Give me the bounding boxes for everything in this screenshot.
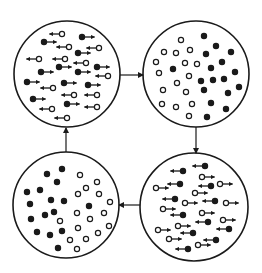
particle xyxy=(85,82,100,87)
open-dot xyxy=(36,56,41,61)
filled-dot xyxy=(75,50,80,55)
open-dot xyxy=(96,45,101,50)
particle xyxy=(199,174,214,179)
particle xyxy=(166,236,181,241)
filled-dot xyxy=(225,90,230,95)
particle xyxy=(41,39,56,44)
filled-dot xyxy=(210,77,215,82)
filled-dot xyxy=(59,228,64,233)
open-dot xyxy=(94,179,99,184)
particle xyxy=(56,44,71,49)
filled-dot xyxy=(208,183,213,188)
filled-dot xyxy=(86,203,91,208)
open-dot xyxy=(217,181,222,186)
particle xyxy=(173,50,178,55)
particle xyxy=(101,210,106,215)
particle xyxy=(95,73,110,78)
particle xyxy=(223,200,238,205)
particle xyxy=(155,227,170,232)
open-dot xyxy=(75,191,80,196)
filled-dot xyxy=(94,64,99,69)
particle xyxy=(95,230,100,235)
particle xyxy=(187,47,192,52)
open-dot xyxy=(83,236,88,241)
filled-dot xyxy=(205,219,210,224)
particle xyxy=(225,90,230,95)
filled-dot xyxy=(221,76,226,81)
filled-dot xyxy=(37,187,42,192)
filled-dot xyxy=(24,79,29,84)
particle xyxy=(232,69,237,74)
cycle-diagram xyxy=(0,0,262,273)
open-dot xyxy=(96,191,101,196)
filled-dot xyxy=(24,189,29,194)
open-dot xyxy=(94,92,99,97)
particle xyxy=(24,79,39,84)
open-dot xyxy=(166,236,171,241)
open-dot xyxy=(74,210,79,215)
particle xyxy=(220,217,235,222)
particle xyxy=(87,216,92,221)
particle xyxy=(34,229,39,234)
open-dot xyxy=(161,49,166,54)
particle xyxy=(173,104,178,109)
particle xyxy=(75,225,80,230)
particle xyxy=(44,171,49,176)
particle xyxy=(26,56,41,61)
particle xyxy=(24,189,29,194)
particle xyxy=(161,49,166,54)
open-dot xyxy=(153,185,158,190)
particle xyxy=(162,196,177,201)
filled-dot xyxy=(208,100,213,105)
particle xyxy=(86,45,101,50)
particle xyxy=(75,50,90,55)
particle xyxy=(59,166,64,171)
filled-dot xyxy=(236,84,241,89)
filled-dot xyxy=(223,106,228,111)
open-dot xyxy=(187,47,192,52)
open-dot xyxy=(156,70,161,75)
open-dot xyxy=(71,92,76,97)
filled-dot xyxy=(177,181,182,186)
open-dot xyxy=(189,101,194,106)
particle xyxy=(170,212,185,217)
open-dot xyxy=(183,89,188,94)
filled-dot xyxy=(228,49,233,54)
particle xyxy=(67,237,72,242)
particle xyxy=(203,51,208,56)
particle xyxy=(54,115,69,120)
particle xyxy=(56,64,71,69)
open-dot xyxy=(74,246,79,251)
open-dot xyxy=(101,210,106,215)
particle xyxy=(160,87,165,92)
particle xyxy=(236,84,241,89)
filled-dot xyxy=(61,198,66,203)
filled-dot xyxy=(64,101,69,106)
particle xyxy=(52,56,67,61)
open-dot xyxy=(174,80,179,85)
filled-dot xyxy=(203,51,208,56)
particle xyxy=(194,61,199,66)
particle xyxy=(61,80,76,85)
particle xyxy=(182,60,187,65)
open-dot xyxy=(182,200,187,205)
open-dot xyxy=(57,218,62,223)
particle xyxy=(107,199,112,204)
open-dot xyxy=(160,206,165,211)
filled-dot xyxy=(48,197,53,202)
particle xyxy=(61,198,66,203)
open-dot xyxy=(105,73,110,78)
open-dot xyxy=(83,60,88,65)
particle xyxy=(39,106,54,111)
filled-dot xyxy=(172,196,177,201)
particle xyxy=(47,232,52,237)
open-dot xyxy=(195,242,200,247)
particle xyxy=(40,85,55,90)
particle xyxy=(208,65,213,70)
filled-dot xyxy=(79,34,84,39)
filled-dot xyxy=(41,39,46,44)
open-dot xyxy=(199,210,204,215)
filled-dot xyxy=(180,168,185,173)
panel-bottom-left xyxy=(13,152,119,258)
particle xyxy=(51,209,56,214)
